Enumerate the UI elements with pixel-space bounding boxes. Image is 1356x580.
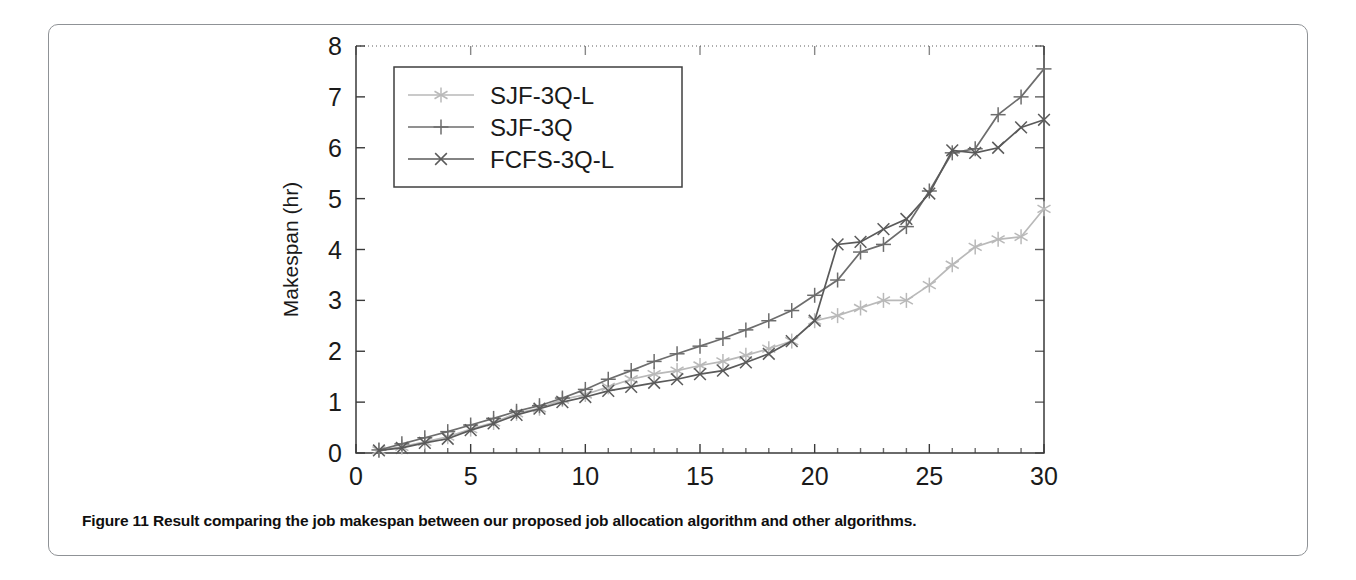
x-tick-label: 20: [801, 462, 829, 490]
makespan-line-chart: 051015202530012345678 SJF-3Q-LSJF-3QFCFS…: [49, 25, 1309, 495]
x-tick-label: 25: [915, 462, 943, 490]
legend-label: FCFS-3Q-L: [490, 146, 614, 173]
legend-label: SJF-3Q: [490, 114, 573, 141]
y-tick-label: 5: [328, 185, 342, 213]
y-tick-label: 7: [328, 83, 342, 111]
y-tick-label: 6: [328, 134, 342, 162]
y-tick-label: 1: [328, 388, 342, 416]
series-sjf-3q-l: [372, 201, 1050, 458]
y-tick-label: 3: [328, 286, 342, 314]
x-tick-label: 30: [1030, 462, 1058, 490]
chart-plot-area: 051015202530012345678 SJF-3Q-LSJF-3QFCFS…: [49, 25, 1309, 495]
x-tick-label: 0: [349, 462, 363, 490]
x-tick-label: 10: [571, 462, 599, 490]
y-tick-label: 0: [328, 439, 342, 467]
figure-caption-body: Result comparing the job makespan betwee…: [153, 512, 916, 529]
y-tick-label: 2: [328, 337, 342, 365]
legend-layer[interactable]: SJF-3Q-LSJF-3QFCFS-3Q-L: [394, 67, 682, 187]
x-tick-label: 5: [464, 462, 478, 490]
figure-card: 051015202530012345678 SJF-3Q-LSJF-3QFCFS…: [48, 24, 1308, 556]
x-tick-label: 15: [686, 462, 714, 490]
y-axis-title: Makespan (hr): [279, 182, 302, 317]
legend-label: SJF-3Q-L: [490, 82, 594, 109]
y-tick-label: 4: [328, 236, 342, 264]
y-tick-label: 8: [328, 32, 342, 60]
figure-caption: Figure 11 Result comparing the job makes…: [82, 511, 1272, 530]
figure-number: Figure 11: [82, 512, 149, 529]
